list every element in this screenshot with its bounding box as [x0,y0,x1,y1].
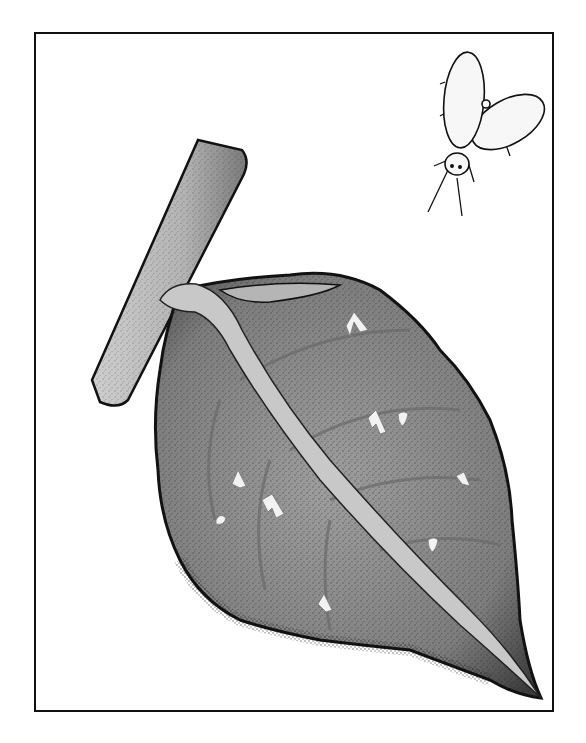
leaf-icon [155,273,541,698]
illustration-canvas [0,0,586,743]
whitefly-icon [428,50,554,216]
